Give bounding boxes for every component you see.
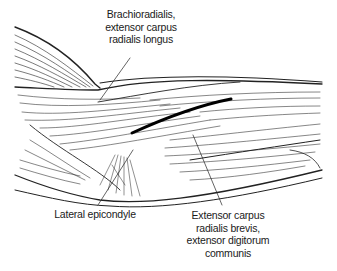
label-brachioradialis: Brachioradialis, extensor carpus radiali… <box>86 8 196 46</box>
label-line: extensor digitorum <box>178 234 278 247</box>
label-line: extensor carpus <box>86 21 196 34</box>
label-lateral-epicondyle: Lateral epicondyle <box>40 208 150 221</box>
label-line: radialis brevis, <box>178 222 278 235</box>
label-line: radialis longus <box>86 33 196 46</box>
label-line: Brachioradialis, <box>86 8 196 21</box>
label-line: Extensor carpus <box>178 209 278 222</box>
label-extensor-carpus-radialis-brevis: Extensor carpus radialis brevis, extenso… <box>178 209 278 259</box>
label-line: Lateral epicondyle <box>40 208 150 221</box>
leader-top <box>100 58 130 100</box>
leader-lateral-epicondyle <box>98 150 133 205</box>
forearm-outline <box>15 170 322 202</box>
label-line: communis <box>178 247 278 260</box>
